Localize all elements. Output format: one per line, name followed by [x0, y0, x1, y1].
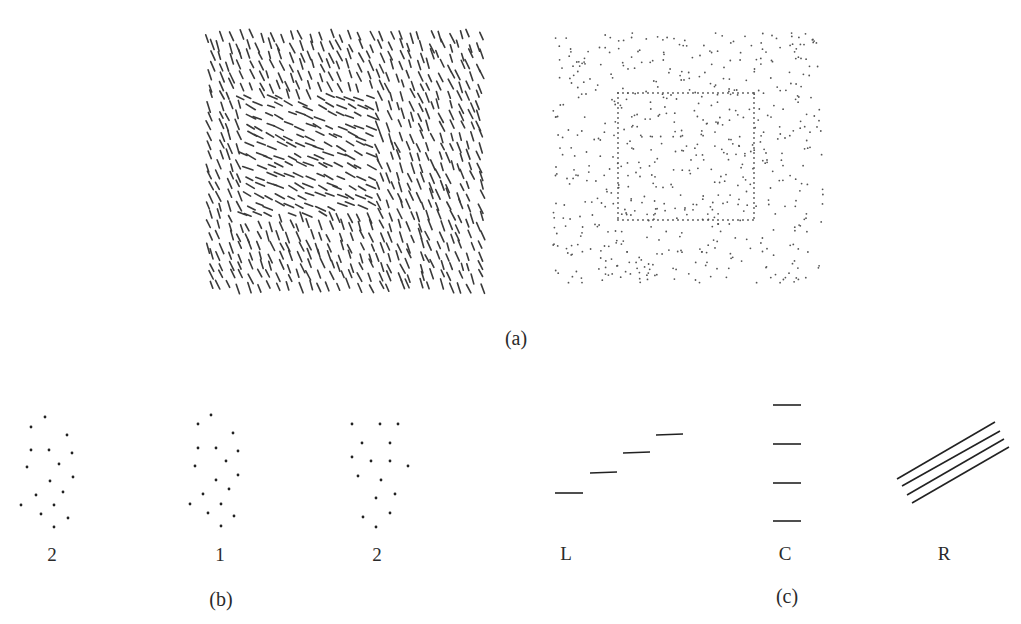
- caption-c: (c): [747, 585, 827, 608]
- group-label-L: L: [536, 543, 596, 565]
- line-configuration-examples: [0, 0, 1021, 624]
- group-label-C: C: [755, 543, 815, 565]
- segments-canvas: [0, 0, 1021, 624]
- group-label-R: R: [914, 543, 974, 565]
